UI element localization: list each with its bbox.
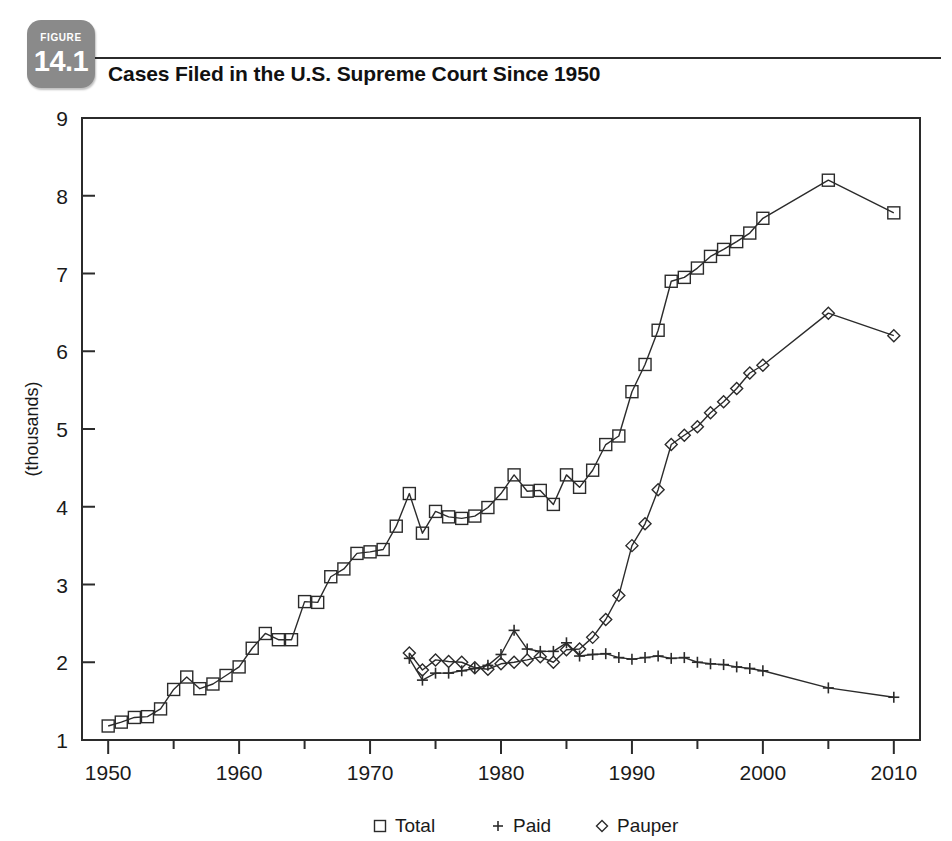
marker-diamond [888, 330, 900, 342]
marker-plus [705, 658, 716, 669]
header-rule [57, 57, 941, 59]
figure-badge-number: 14.1 [27, 44, 95, 78]
chart-container: 123456789 (thousands) 195019601970198019… [0, 100, 952, 841]
x-tick-label: 1980 [478, 761, 525, 784]
x-tick-label: 2010 [870, 761, 917, 784]
x-tick-label: 1970 [347, 761, 394, 784]
series-paid [404, 625, 899, 703]
marker-plus [430, 668, 441, 679]
marker-plus [718, 659, 729, 670]
figure-number-badge: FIGURE 14.1 [27, 20, 95, 88]
marker-plus [888, 692, 899, 703]
legend-label-paid: Paid [513, 815, 551, 836]
legend-label-total: Total [395, 815, 435, 836]
marker-plus [731, 661, 742, 672]
legend-marker-paid [493, 821, 503, 831]
marker-plus [600, 648, 611, 659]
y-tick-label: 8 [56, 185, 68, 208]
legend-marker-total [375, 821, 386, 832]
marker-plus [666, 653, 677, 664]
plot-frame [82, 118, 920, 740]
marker-plus [823, 682, 834, 693]
y-tick-label: 9 [56, 107, 68, 130]
marker-plus [456, 665, 467, 676]
marker-plus [587, 649, 598, 660]
y-tick-label: 2 [56, 651, 68, 674]
y-tick-label: 1 [56, 729, 68, 752]
marker-plus [757, 665, 768, 676]
x-tick-label: 2000 [740, 761, 787, 784]
marker-plus [509, 625, 520, 636]
y-tick-label: 4 [56, 496, 68, 519]
line-chart: 123456789 (thousands) 195019601970198019… [0, 100, 952, 841]
y-axis-tick-labels: 123456789 [56, 107, 68, 752]
y-axis-title: (thousands) [22, 381, 42, 476]
x-tick-label: 1950 [85, 761, 132, 784]
y-tick-label: 5 [56, 418, 68, 441]
x-axis-tick-labels: 1950196019701980199020002010 [85, 761, 917, 784]
series-polyline-total [108, 180, 894, 726]
y-tick-label: 7 [56, 263, 68, 286]
marker-square [102, 720, 114, 732]
marker-plus [692, 657, 703, 668]
marker-plus [522, 644, 533, 655]
y-axis-ticks [82, 196, 95, 740]
y-tick-label: 6 [56, 340, 68, 363]
marker-plus [626, 654, 637, 665]
marker-plus [653, 651, 664, 662]
x-tick-label: 1990 [609, 761, 656, 784]
x-tick-label: 1960 [216, 761, 263, 784]
x-axis-ticks [108, 740, 894, 754]
chart-legend: TotalPaidPauper [375, 815, 679, 836]
marker-plus [744, 663, 755, 674]
legend-marker-pauper [597, 821, 608, 832]
marker-plus [613, 652, 624, 663]
series-polyline-paid [409, 630, 893, 697]
figure-badge-word: FIGURE [27, 32, 95, 43]
figure-header: FIGURE 14.1 Cases Filed in the U.S. Supr… [0, 0, 952, 100]
series-total [102, 174, 900, 732]
figure-title: Cases Filed in the U.S. Supreme Court Si… [108, 62, 600, 86]
marker-plus [548, 646, 559, 657]
marker-square [888, 207, 900, 219]
marker-plus [679, 652, 690, 663]
legend-label-pauper: Pauper [617, 815, 679, 836]
marker-plus [640, 652, 651, 663]
marker-plus [443, 668, 454, 679]
y-tick-label: 3 [56, 574, 68, 597]
